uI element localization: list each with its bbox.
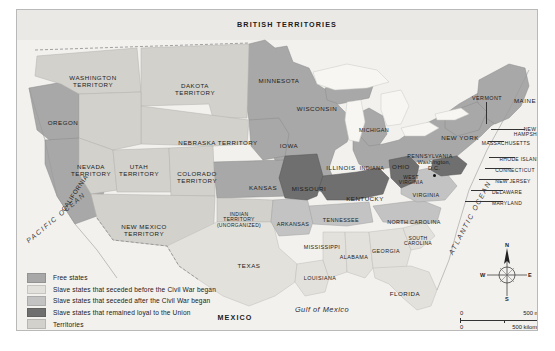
legend-label-seceded-before: Slave states that seceded before the Civ…	[53, 286, 216, 293]
compass-north: N	[505, 242, 509, 248]
legend-swatch-seceded-after	[27, 296, 46, 306]
legend-item-free-states: Free states	[27, 272, 277, 284]
map-legend: Free statesSlave states that seceded bef…	[27, 272, 277, 330]
legend-label-loyal-slave-states: Slave states that remained loyal to the …	[53, 309, 191, 316]
legend-item-seceded-after: Slave states that seceded after the Civi…	[27, 295, 277, 307]
scale-bar-graphic	[460, 318, 538, 323]
legend-swatch-seceded-before	[27, 285, 46, 295]
scale-miles-labels: 0 500 miles	[460, 310, 538, 318]
legend-label-territories: Territories	[53, 321, 84, 328]
scale-km-max: 500 kilometres	[512, 324, 538, 330]
compass-west: W	[480, 272, 485, 278]
scale-miles-max: 500 miles	[523, 310, 538, 316]
compass-east: E	[528, 272, 532, 278]
legend-item-seceded-before: Slave states that seceded before the Civ…	[27, 284, 277, 296]
legend-item-loyal-slave-states: Slave states that remained loyal to the …	[27, 307, 277, 319]
map-frame: BRITISH TERRITORIES MEXICO PACIFIC OCEAN…	[16, 9, 538, 331]
legend-swatch-loyal-slave-states	[27, 308, 46, 318]
legend-label-free-states: Free states	[53, 274, 88, 281]
scale-miles-zero: 0	[460, 310, 463, 316]
compass-south: S	[505, 296, 509, 302]
legend-swatch-territories	[27, 319, 46, 329]
scale-km-zero: 0	[460, 324, 463, 330]
scale-bars: 0 500 miles 0 500 kilometres	[460, 310, 538, 331]
scale-km-labels: 0 500 kilometres	[460, 324, 538, 331]
compass-rose: N S E W	[479, 246, 535, 304]
legend-label-seceded-after: Slave states that seceded after the Civi…	[53, 297, 210, 304]
historical-map: BRITISH TERRITORIES MEXICO PACIFIC OCEAN…	[0, 0, 555, 351]
british-territories-area	[17, 10, 537, 40]
legend-item-territories: Territories	[27, 318, 277, 330]
legend-swatch-free-states	[27, 273, 46, 283]
